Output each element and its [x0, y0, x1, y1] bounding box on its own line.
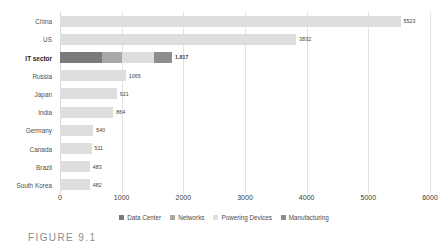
legend-swatch-icon — [213, 215, 218, 220]
bar-row-canada: 511 — [60, 139, 430, 157]
x-axis-tick-labels: 0100020003000400050006000 — [60, 194, 430, 208]
category-label-us: US — [43, 36, 52, 43]
legend-item-data-center[interactable]: Data Center — [119, 214, 161, 221]
bar-segment-powering-devices — [122, 52, 154, 63]
bar-value-label: 540 — [96, 127, 105, 133]
legend-label: Networks — [178, 214, 204, 221]
stacked-bar — [60, 125, 93, 136]
category-label-canada: Canada — [30, 145, 52, 152]
stacked-bar — [60, 107, 113, 118]
bar-row-india: 864 — [60, 103, 430, 121]
bar-row-south-korea: 482 — [60, 176, 430, 194]
legend-label: Data Center — [127, 214, 161, 221]
bar-row-china: 5523 — [60, 12, 430, 30]
bar-value-label: 864 — [116, 109, 125, 115]
stacked-bar — [60, 88, 117, 99]
stacked-bar — [60, 34, 296, 45]
bar-row-it-sector: 1,817 — [60, 48, 430, 66]
bar-row-brazil: 483 — [60, 158, 430, 176]
bar-segment-powering-devices — [60, 88, 117, 99]
bar-chart-figure: ChinaUSIT sectorRussiaJapanIndiaGermanyC… — [0, 0, 448, 245]
x-tick-0: 0 — [58, 194, 62, 201]
bar-segment-manufacturing — [154, 52, 172, 63]
gridline-6000 — [430, 12, 431, 194]
stacked-bar — [60, 16, 401, 27]
legend-label: Powering Devices — [221, 214, 271, 221]
bar-segment-powering-devices — [60, 125, 93, 136]
category-label-it-sector: IT sector — [25, 54, 52, 61]
category-label-germany: Germany — [26, 127, 52, 134]
category-label-south-korea: South Korea — [16, 181, 52, 188]
bar-row-japan: 921 — [60, 85, 430, 103]
x-tick-1000: 1000 — [114, 194, 130, 201]
bar-rows: 552338321,8171065921864540511483482 — [60, 12, 430, 194]
category-axis-labels: ChinaUSIT sectorRussiaJapanIndiaGermanyC… — [0, 12, 56, 194]
figure-caption: FIGURE 9.1 — [28, 232, 96, 243]
bar-value-label: 5523 — [404, 18, 416, 24]
x-tick-4000: 4000 — [299, 194, 315, 201]
x-tick-3000: 3000 — [237, 194, 253, 201]
x-tick-6000: 6000 — [422, 194, 438, 201]
bar-row-russia: 1065 — [60, 67, 430, 85]
stacked-bar — [60, 52, 172, 63]
bar-value-label: 482 — [93, 182, 102, 188]
stacked-bar — [60, 143, 92, 154]
bar-segment-data-center — [60, 52, 102, 63]
legend-swatch-icon — [170, 215, 175, 220]
bar-segment-networks — [102, 52, 122, 63]
legend-item-networks[interactable]: Networks — [170, 214, 204, 221]
chart-legend: Data CenterNetworksPowering DevicesManuf… — [0, 214, 448, 221]
bar-row-us: 3832 — [60, 30, 430, 48]
bar-value-label: 483 — [93, 164, 102, 170]
category-label-russia: Russia — [32, 72, 52, 79]
bar-value-label: 1065 — [129, 73, 141, 79]
stacked-bar — [60, 179, 90, 190]
x-tick-2000: 2000 — [176, 194, 192, 201]
legend-swatch-icon — [119, 215, 124, 220]
bar-value-label: 921 — [120, 91, 129, 97]
stacked-bar — [60, 161, 90, 172]
stacked-bar — [60, 70, 126, 81]
bar-segment-powering-devices — [60, 143, 92, 154]
bar-segment-powering-devices — [60, 107, 113, 118]
x-tick-5000: 5000 — [361, 194, 377, 201]
bar-value-label: 3832 — [299, 36, 311, 42]
legend-item-powering-devices[interactable]: Powering Devices — [213, 214, 271, 221]
category-label-china: China — [35, 18, 52, 25]
bar-segment-powering-devices — [60, 70, 126, 81]
legend-item-manufacturing[interactable]: Manufacturing — [281, 214, 329, 221]
bar-segment-powering-devices — [60, 179, 90, 190]
legend-swatch-icon — [281, 215, 286, 220]
plot-area: 552338321,8171065921864540511483482 — [60, 12, 430, 194]
bar-value-label: 1,817 — [175, 54, 188, 60]
legend-label: Manufacturing — [289, 214, 329, 221]
bar-value-label: 511 — [95, 145, 104, 151]
category-label-japan: Japan — [35, 90, 52, 97]
category-label-brazil: Brazil — [36, 163, 52, 170]
bar-segment-powering-devices — [60, 34, 296, 45]
bar-segment-powering-devices — [60, 16, 401, 27]
bar-segment-powering-devices — [60, 161, 90, 172]
category-label-india: India — [38, 109, 52, 116]
bar-row-germany: 540 — [60, 121, 430, 139]
